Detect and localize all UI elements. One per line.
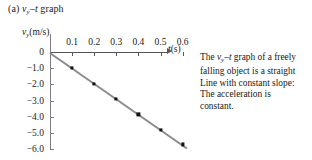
y-tick-mark [50, 68, 54, 69]
x-tick-label: 0.3 [110, 37, 122, 47]
plot-area: vy(m/s) t(s) 0.10.20.30.40.50.6 0−1.0−2.… [0, 18, 196, 160]
caption-line-3: Line with constant slope: [200, 78, 312, 89]
caption-line-2: falling object is a straight [200, 66, 312, 77]
x-tick-mark [183, 52, 184, 56]
x-tick-label: 0.2 [88, 37, 100, 47]
caption-line-1-pre: The [200, 52, 217, 62]
y-tick-label: −4.0 [10, 112, 44, 122]
y-axis-label: vy(m/s) [22, 27, 49, 39]
x-tick-label: 0.1 [66, 37, 78, 47]
figure-title: (a) vy–t graph [8, 3, 64, 16]
y-tick-mark [50, 133, 54, 134]
figure-title-label: (a) [8, 3, 22, 14]
caption-line-4: The acceleration is [200, 89, 312, 100]
caption-block: The vy–t graph of a freely falling objec… [200, 52, 312, 112]
caption-line-1: The vy–t graph of a freely [200, 52, 312, 66]
caption-line-1-post: graph of a freely [232, 52, 297, 62]
x-axis-arrow-icon [167, 48, 172, 54]
y-tick-mark [50, 84, 54, 85]
x-tick-label: 0.6 [177, 37, 189, 47]
data-point [159, 128, 162, 131]
y-tick-label: −1.0 [10, 63, 44, 73]
data-point [115, 97, 118, 100]
x-tick-mark [116, 52, 117, 56]
y-tick-label: 0 [10, 47, 44, 57]
x-tick-label: 0.4 [132, 37, 144, 47]
x-tick-mark [72, 52, 73, 56]
y-tick-label: −5.0 [10, 128, 44, 138]
x-tick-mark [161, 52, 162, 56]
figure-title-suffix: graph [38, 3, 64, 14]
data-point [71, 67, 74, 70]
data-point [93, 82, 96, 85]
y-tick-mark [50, 149, 54, 150]
data-point [181, 143, 184, 146]
y-tick-label: −2.0 [10, 79, 44, 89]
x-tick-mark [138, 52, 139, 56]
caption-line-5: constant. [200, 101, 312, 112]
x-axis-line [50, 52, 168, 53]
x-tick-label: 0.5 [155, 37, 167, 47]
y-tick-label: −6.0 [10, 144, 44, 154]
data-point [137, 113, 140, 116]
y-tick-mark [50, 117, 54, 118]
x-tick-mark [94, 52, 95, 56]
y-axis-label-unit: (m/s) [29, 27, 49, 37]
y-tick-label: −3.0 [10, 96, 44, 106]
figure-container: (a) vy–t graph vy(m/s) t(s) 0.10.20.30.4… [0, 0, 312, 160]
y-tick-mark [50, 101, 54, 102]
